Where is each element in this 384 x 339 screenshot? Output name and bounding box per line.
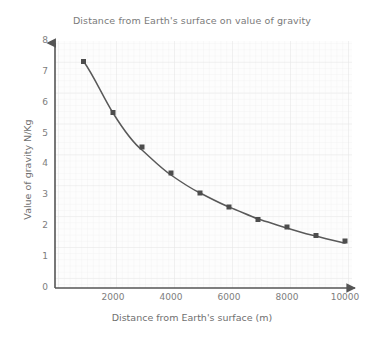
y-tick-label: 4 — [30, 158, 48, 168]
y-tick-label: 6 — [30, 97, 48, 107]
grid-background — [55, 41, 352, 288]
y-tick-label: 2 — [30, 220, 48, 230]
x-tick-label: 2000 — [91, 292, 135, 302]
data-point — [169, 171, 174, 176]
chart-container: Distance from Earth's surface on value o… — [0, 0, 384, 339]
y-tick-label: 5 — [30, 128, 48, 138]
y-tick-label: 8 — [30, 35, 48, 45]
y-tick-label: 3 — [30, 189, 48, 199]
y-tick-label: 0 — [30, 282, 48, 292]
data-point — [140, 145, 145, 150]
data-point — [198, 191, 203, 196]
x-tick-label: 4000 — [149, 292, 193, 302]
y-tick-label: 7 — [30, 66, 48, 76]
x-axis-label: Distance from Earth's surface (m) — [0, 312, 384, 323]
y-tick-label: 1 — [30, 251, 48, 261]
data-point — [314, 233, 319, 238]
chart-plot-area — [0, 0, 384, 339]
data-point — [111, 110, 116, 115]
data-point — [256, 217, 261, 222]
x-tick-label: 10000 — [323, 292, 367, 302]
data-point — [285, 225, 290, 230]
data-point — [81, 59, 86, 64]
x-tick-label: 8000 — [265, 292, 309, 302]
data-point — [343, 239, 348, 244]
data-point — [227, 205, 232, 210]
x-tick-label: 6000 — [207, 292, 251, 302]
y-axis-label: Value of gravity N/Kg — [22, 100, 33, 240]
